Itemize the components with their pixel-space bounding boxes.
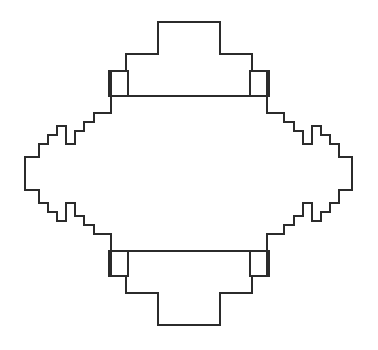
figure-background bbox=[0, 0, 378, 350]
geometric-figure-canvas: Quadratic staircase closed curve A close… bbox=[0, 0, 378, 350]
